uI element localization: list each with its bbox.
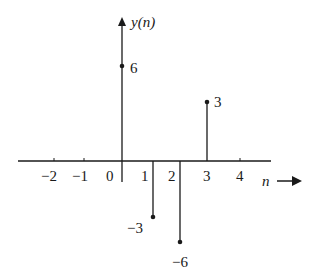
n-arrow-icon [292, 176, 302, 186]
x-tick-label: 0 [106, 168, 114, 184]
stem-dot-n2 [178, 240, 183, 245]
x-tick-label: 2 [168, 168, 176, 184]
x-tick-label: −1 [72, 168, 88, 184]
value-label-n2: −6 [172, 254, 188, 270]
value-label-n1: −3 [127, 220, 143, 236]
x-tick-label: 4 [236, 168, 244, 184]
value-label-n3: 3 [214, 94, 222, 110]
stem-dot-n0 [120, 64, 125, 69]
x-tick-label: 1 [141, 168, 149, 184]
y-axis-label: y(n) [129, 14, 155, 31]
stem-dot-n3 [205, 100, 210, 105]
x-axis-label: n [262, 173, 270, 189]
x-tick-label: −2 [41, 168, 57, 184]
stem-plot: y(n) 6 −3 −6 3 −2 −1 0 1 2 3 4 n [0, 0, 317, 278]
x-tick-label: 3 [203, 168, 211, 184]
stem-dot-n1 [151, 215, 156, 220]
value-label-n0: 6 [130, 60, 138, 76]
y-axis-arrow-icon [118, 17, 126, 26]
